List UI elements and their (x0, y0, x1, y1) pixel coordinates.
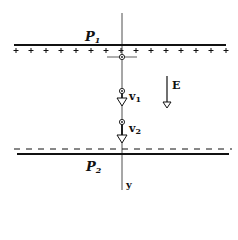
label-v1: v1 (129, 91, 141, 103)
label-v2: v2 (129, 123, 141, 135)
label-y-axis: y (126, 180, 132, 190)
label-p2: P2 (86, 160, 101, 174)
label-e: E (172, 80, 180, 91)
label-p1: P1 (85, 30, 100, 44)
